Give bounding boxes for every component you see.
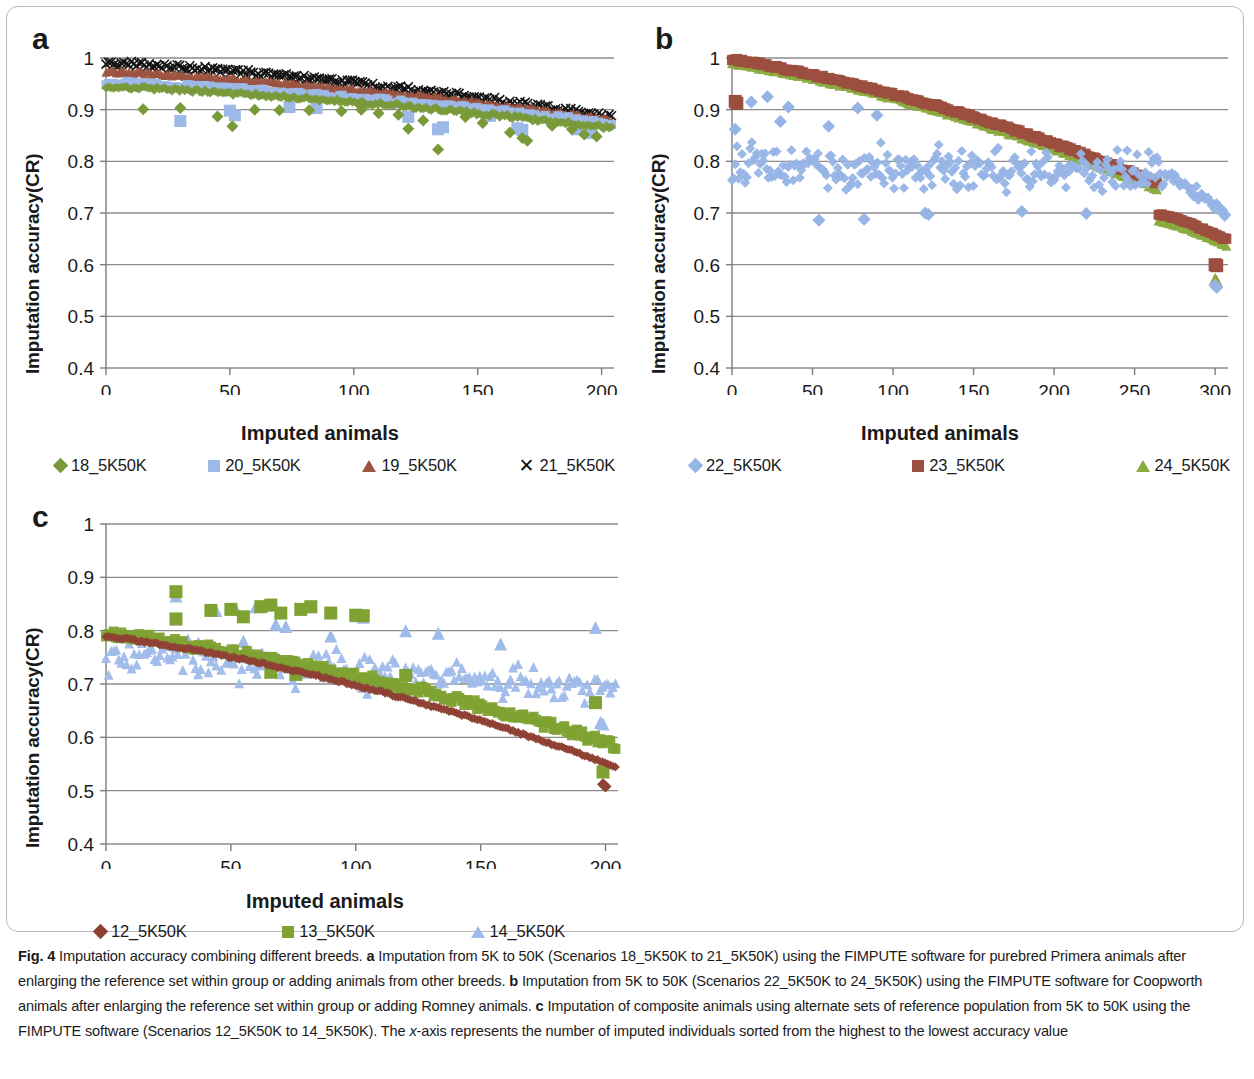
data-point <box>610 744 620 754</box>
data-point <box>1122 145 1132 155</box>
data-point <box>432 143 444 155</box>
legend-label: 13_5K50K <box>299 922 374 941</box>
legend-entry-21_5k50k[interactable]: ✕21_5K50K <box>519 456 615 475</box>
x-tick-label: 100 <box>340 857 372 869</box>
panel-c-legend: 12_5K50K13_5K50K14_5K50K <box>95 922 565 941</box>
panel-b-legend: 22_5K50K23_5K50K24_5K50K <box>690 456 1230 475</box>
data-point <box>452 657 462 667</box>
x-tick-label: 150 <box>958 381 990 395</box>
data-point <box>610 678 620 688</box>
y-tick-label: 0.8 <box>68 621 94 642</box>
data-point <box>283 101 295 113</box>
x-tick-label: 300 <box>1199 381 1231 395</box>
tick-labels: 0.40.50.60.70.80.91050100150200250300 <box>694 50 1231 395</box>
panel-a: a Imputation accuracy(CR) 0.40.50.60.70.… <box>0 0 630 500</box>
x-tick-label: 150 <box>465 857 497 869</box>
panel-a-plot-area: 0.40.50.60.70.80.91050100150200 <box>40 50 620 395</box>
data-point <box>337 653 347 663</box>
data-point <box>324 630 337 643</box>
data-point <box>1061 183 1071 193</box>
data-point <box>876 138 886 148</box>
legend-label: 19_5K50K <box>381 456 456 475</box>
legend-entry-23_5k50k[interactable]: 23_5K50K <box>912 456 1004 475</box>
data-point <box>927 180 937 190</box>
legend-entry-24_5k50k[interactable]: 24_5K50K <box>1136 456 1230 475</box>
y-tick-label: 0.4 <box>68 358 95 379</box>
caption-segment: -axis represents the number of imputed i… <box>417 1023 1068 1039</box>
y-tick-label: 0.9 <box>68 100 94 121</box>
y-tick-label: 1 <box>83 50 94 69</box>
legend-entry-13_5k50k[interactable]: 13_5K50K <box>282 922 374 941</box>
diamond-marker-icon <box>688 458 704 474</box>
legend-label: 18_5K50K <box>71 456 146 475</box>
triangle-marker-icon <box>362 460 376 472</box>
data-point <box>589 696 602 709</box>
x-tick-label: 200 <box>1038 381 1070 395</box>
panel-a-legend: 18_5K50K20_5K50K19_5K50K✕21_5K50K <box>55 456 615 475</box>
caption-segment: Fig. 4 <box>18 948 55 964</box>
data-point <box>335 105 347 117</box>
x-tick-label: 100 <box>877 381 909 395</box>
data-point <box>505 674 515 684</box>
data-point <box>1015 205 1028 218</box>
legend-entry-20_5k50k[interactable]: 20_5K50K <box>208 456 300 475</box>
data-point <box>737 149 747 159</box>
legend-entry-14_5k50k[interactable]: 14_5K50K <box>471 922 565 941</box>
y-tick-label: 0.4 <box>694 358 721 379</box>
legend-label: 14_5K50K <box>490 922 565 941</box>
data-point <box>787 145 797 155</box>
legend-label: 24_5K50K <box>1155 456 1230 475</box>
data-point <box>357 609 370 622</box>
data-point <box>437 121 449 133</box>
x-tick-label: 0 <box>727 381 738 395</box>
triangle-marker-icon <box>471 926 485 938</box>
data-point <box>274 607 287 620</box>
data-point <box>399 669 412 682</box>
data-point <box>1112 145 1122 155</box>
data-point <box>899 183 909 193</box>
data-point <box>234 678 244 688</box>
legend-label: 23_5K50K <box>929 456 1004 475</box>
y-tick-label: 0.7 <box>68 203 94 224</box>
diamond-marker-icon <box>53 458 69 474</box>
panel-c: c Imputation accuracy(CR) 0.40.50.60.70.… <box>0 492 660 942</box>
y-tick-label: 0.4 <box>68 834 95 855</box>
triangle-marker-icon <box>1136 460 1150 472</box>
legend-entry-19_5k50k[interactable]: 19_5K50K <box>362 456 456 475</box>
data-point <box>203 667 213 677</box>
data-point <box>137 103 149 115</box>
x-tick-label: 200 <box>590 857 622 869</box>
y-tick-label: 0.6 <box>68 727 94 748</box>
x-tick-label: 0 <box>101 381 112 395</box>
data-point <box>822 120 835 133</box>
data-point <box>417 115 429 127</box>
x-tick-label: 50 <box>219 381 240 395</box>
y-tick-label: 0.9 <box>68 567 94 588</box>
diamond-marker-icon <box>93 924 109 940</box>
data-point <box>1026 147 1036 157</box>
data-point <box>212 110 224 122</box>
data-point <box>169 612 182 625</box>
data-point <box>188 655 198 665</box>
data-point <box>249 104 261 116</box>
data-point <box>169 585 182 598</box>
legend-entry-12_5k50k[interactable]: 12_5K50K <box>95 922 186 941</box>
panel-c-x-axis-label: Imputed animals <box>145 890 505 913</box>
x-tick-label: 200 <box>586 381 618 395</box>
y-tick-label: 0.6 <box>68 255 94 276</box>
data-point <box>132 660 142 670</box>
panel-b-x-axis-label: Imputed animals <box>760 422 1120 445</box>
data-point <box>178 665 188 675</box>
y-tick-label: 0.8 <box>68 151 94 172</box>
legend-entry-18_5k50k[interactable]: 18_5K50K <box>55 456 146 475</box>
data-point <box>732 141 742 151</box>
data-point <box>237 664 247 674</box>
data-point <box>745 95 758 108</box>
data-point <box>331 644 341 654</box>
data-point <box>304 600 317 613</box>
caption-segment: c <box>536 998 544 1014</box>
data-point <box>934 140 944 150</box>
legend-entry-22_5k50k[interactable]: 22_5K50K <box>690 456 781 475</box>
data-point <box>940 174 950 184</box>
x-tick-label: 100 <box>338 381 370 395</box>
